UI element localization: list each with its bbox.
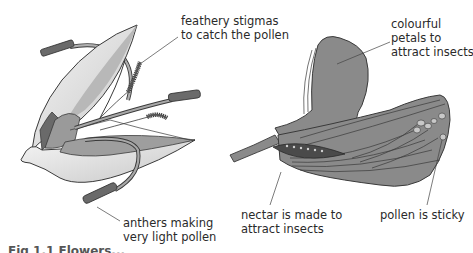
label-line: nectar is made to bbox=[241, 208, 342, 222]
label-line: very light pollen bbox=[123, 230, 216, 244]
label-line: anthers making bbox=[123, 216, 216, 230]
figure-caption: Fig 1.1 Flowers... bbox=[8, 244, 125, 253]
label-anthers: anthers making very light pollen bbox=[123, 216, 216, 244]
wind-flower bbox=[21, 25, 201, 221]
label-line: attract insects bbox=[391, 45, 473, 59]
label-line: pollen is sticky bbox=[380, 208, 465, 222]
label-line: petals to bbox=[391, 31, 473, 45]
label-colourful-petals: colourful petals to attract insects bbox=[391, 17, 473, 59]
diagram-stage: feathery stigmas to catch the pollen ant… bbox=[0, 0, 473, 253]
insect-flower bbox=[230, 37, 450, 205]
leader-line-stigmas bbox=[140, 37, 178, 64]
leader-line-anthers bbox=[97, 207, 120, 221]
label-line: attract insects bbox=[241, 222, 342, 236]
label-feathery-stigmas: feathery stigmas to catch the pollen bbox=[181, 14, 289, 42]
label-line: to catch the pollen bbox=[181, 28, 289, 42]
leader-line-nectar bbox=[270, 172, 281, 205]
label-pollen-sticky: pollen is sticky bbox=[380, 208, 465, 222]
label-line: colourful bbox=[391, 17, 473, 31]
label-line: feathery stigmas bbox=[181, 14, 289, 28]
label-nectar: nectar is made to attract insects bbox=[241, 208, 342, 236]
